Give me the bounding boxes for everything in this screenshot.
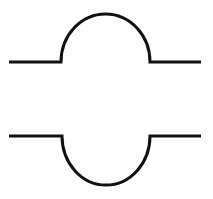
diagram-canvas [0, 0, 213, 199]
profile-diagram [0, 0, 213, 199]
concave-dip-profile [9, 136, 201, 185]
convex-bump-profile [9, 14, 201, 62]
